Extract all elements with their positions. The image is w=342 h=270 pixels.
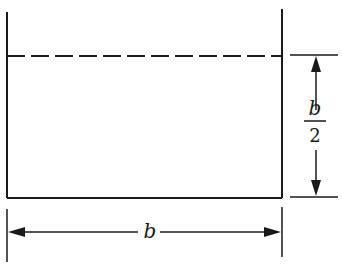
arrow-left-icon [8, 227, 25, 237]
depth-label-denominator: 2 [309, 125, 320, 146]
depth-label-numerator: b [309, 96, 322, 120]
arrow-up-icon [311, 56, 321, 72]
arrow-right-icon [264, 227, 281, 237]
width-label: b [144, 219, 157, 243]
arrow-down-icon [311, 180, 321, 196]
tank-diagram: b 2 b [0, 0, 342, 270]
container [7, 9, 282, 198]
